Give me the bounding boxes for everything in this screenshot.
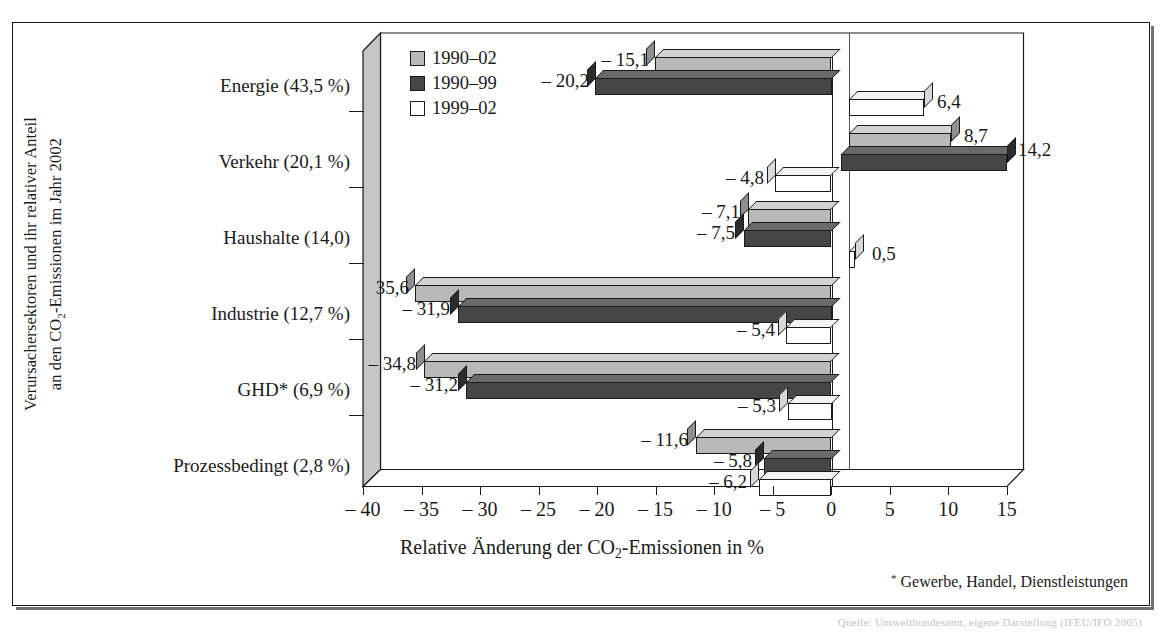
value-label-energie-1999-02: 6,4	[937, 91, 961, 113]
value-label-ghd-1990-02: – 34,8	[348, 353, 416, 375]
bar-energie-1990-99	[595, 78, 832, 95]
legend-label-1990-02: 1990–02	[432, 48, 497, 69]
bar-ghd-1990-99	[466, 382, 831, 399]
legend-swatch-1990-02	[410, 51, 425, 66]
bar-ghd-1999-02	[788, 403, 832, 420]
value-label-verkehr-1990-99: 14,2	[1018, 139, 1051, 161]
x-axis-title: Relative Änderung der CO2-Emissionen in …	[0, 536, 1164, 562]
x-axis-title-a: Relative Änderung der CO	[400, 536, 615, 558]
legend-item-1990-02[interactable]: 1990–02	[410, 46, 497, 71]
bar-verkehr-1990-99	[841, 154, 1007, 171]
bar-verkehr-1999-02	[775, 175, 831, 192]
legend-swatch-1990-99	[410, 76, 425, 91]
value-label-industrie-1990-02: 35,6	[347, 277, 409, 299]
value-label-industrie-1990-99: – 31,9	[382, 298, 450, 320]
x-axis-title-subscript: 2	[615, 546, 622, 561]
footnote: * Gewerbe, Handel, Dienstleistungen	[891, 572, 1128, 591]
zero-axis-line	[832, 51, 833, 486]
value-label-haushalte-1990-99: – 7,5	[673, 222, 735, 244]
value-label-prozessbedingt-1990-02: – 11,6	[620, 429, 688, 451]
bar-energie-1999-02	[849, 99, 924, 116]
legend-item-1999-02[interactable]: 1999–02	[410, 96, 497, 121]
chart-figure: Verursachersektoren und ihr relativer An…	[0, 0, 1164, 634]
bar-haushalte-1999-02	[849, 251, 855, 268]
legend: 1990–02 1990–99 1999–02	[410, 46, 497, 121]
value-label-ghd-1999-02: – 5,3	[712, 395, 776, 417]
legend-swatch-1999-02	[410, 101, 425, 116]
value-label-ghd-1990-99: – 31,2	[390, 374, 458, 396]
legend-item-1990-99[interactable]: 1990–99	[410, 71, 497, 96]
value-label-haushalte-1999-02: 0,5	[872, 243, 896, 265]
footnote-text: Gewerbe, Handel, Dienstleistungen	[901, 573, 1128, 590]
legend-label-1990-99: 1990–99	[432, 73, 497, 94]
value-label-industrie-1999-02: – 5,4	[711, 319, 775, 341]
x-axis-title-b: -Emissionen in %	[622, 536, 764, 558]
footnote-marker: *	[891, 572, 896, 584]
bar-industrie-1999-02	[786, 327, 831, 344]
bar-industrie-1990-99	[458, 306, 832, 323]
x-tick-label-15: 15	[972, 498, 1042, 521]
value-label-verkehr-1999-02: – 4,8	[700, 167, 764, 189]
bar-prozessbedingt-1999-02	[759, 479, 832, 496]
value-label-haushalte-1990-02: – 7,1	[678, 201, 740, 223]
value-label-verkehr-1990-02: 8,7	[964, 125, 988, 147]
bar-haushalte-1990-99	[744, 230, 832, 247]
legend-label-1999-02: 1999–02	[432, 98, 497, 119]
value-label-energie-1990-99: – 20,2	[525, 70, 589, 92]
source-credit: Quelle: Umweltbundesamt, eigene Darstell…	[838, 616, 1142, 628]
value-label-prozessbedingt-1990-99: – 5,8	[688, 450, 752, 472]
